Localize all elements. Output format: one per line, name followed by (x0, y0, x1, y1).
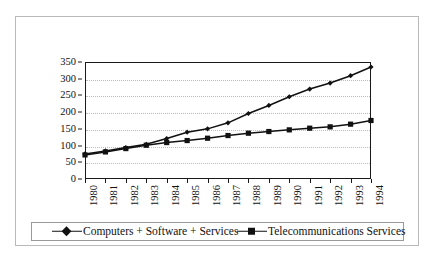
chart-figure: 050100150200250300350 198019811982198319… (0, 0, 436, 263)
x-tick-mark (126, 179, 127, 183)
x-tick-mark (269, 179, 270, 183)
x-tick-mark (208, 179, 209, 183)
x-tick-label: 1991 (314, 185, 325, 206)
diamond-marker-icon (52, 227, 82, 237)
data-point-square (164, 140, 169, 145)
x-tick-label: 1988 (252, 185, 263, 206)
y-tick-mark (78, 62, 82, 63)
data-point-square (144, 143, 149, 148)
y-tick-label: 150 (60, 124, 76, 135)
data-point-diamond (348, 73, 353, 78)
x-tick-mark (310, 179, 311, 183)
plot-wrapper (85, 62, 371, 179)
y-tick-label: 100 (60, 140, 76, 151)
x-tick-label: 1989 (273, 185, 284, 206)
data-point-square (368, 118, 373, 123)
data-point-square (348, 122, 353, 127)
x-tick-label: 1990 (293, 185, 304, 206)
y-tick-label: 250 (60, 90, 76, 101)
y-tick-mark (78, 162, 82, 163)
y-tick-mark (78, 145, 82, 146)
data-point-diamond (328, 80, 333, 85)
legend-entry-computers: Computers + Software + Services (52, 226, 238, 238)
x-tick-mark (228, 179, 229, 183)
y-axis: 050100150200250300350 (44, 62, 82, 179)
y-tick-mark (78, 78, 82, 79)
chart-legend: Computers + Software + Services Telecomm… (31, 222, 404, 241)
data-point-diamond (266, 103, 271, 108)
data-point-diamond (185, 130, 190, 135)
y-tick-label: 350 (60, 57, 76, 68)
x-tick-mark (351, 179, 352, 183)
x-axis: 1980198119821983198419851986198719881989… (85, 179, 371, 221)
x-tick-mark (289, 179, 290, 183)
data-point-square (225, 133, 230, 138)
x-tick-label: 1983 (150, 185, 161, 206)
data-point-square (185, 138, 190, 143)
x-tick-label: 1982 (130, 185, 141, 206)
series-layer (85, 62, 371, 179)
x-tick-mark (248, 179, 249, 183)
x-tick-mark (330, 179, 331, 183)
data-point-square (328, 124, 333, 129)
series-line (85, 67, 371, 154)
legend-entry-telecom: Telecommunications Services (237, 226, 405, 238)
y-tick-label: 0 (71, 174, 76, 185)
data-point-diamond (205, 126, 210, 131)
y-tick-label: 300 (60, 73, 76, 84)
y-tick-mark (78, 95, 82, 96)
series-computers (82, 64, 373, 156)
legend-label-computers: Computers + Software + Services (83, 226, 238, 238)
data-point-square (123, 146, 128, 151)
x-tick-mark (167, 179, 168, 183)
x-tick-mark (146, 179, 147, 183)
y-tick-label: 200 (60, 107, 76, 118)
data-point-square (266, 129, 271, 134)
y-tick-mark (78, 179, 82, 180)
x-tick-label: 1986 (212, 185, 223, 206)
x-tick-label: 1985 (191, 185, 202, 206)
y-tick-mark (78, 128, 82, 129)
x-tick-label: 1984 (171, 185, 182, 206)
square-marker-icon (237, 227, 267, 237)
x-tick-label: 1980 (89, 185, 100, 206)
x-tick-mark (187, 179, 188, 183)
y-tick-label: 50 (66, 157, 77, 168)
x-tick-mark (85, 179, 86, 183)
data-point-square (246, 131, 251, 136)
x-tick-label: 1994 (375, 185, 386, 206)
data-point-square (307, 126, 312, 131)
x-tick-mark (371, 179, 372, 183)
legend-label-telecom: Telecommunications Services (268, 226, 405, 238)
data-point-square (205, 136, 210, 141)
data-point-square (287, 127, 292, 132)
data-point-square (103, 149, 108, 154)
data-point-diamond (225, 120, 230, 125)
data-point-diamond (307, 86, 312, 91)
x-tick-label: 1992 (334, 185, 345, 206)
data-point-diamond (246, 111, 251, 116)
data-point-diamond (287, 94, 292, 99)
x-tick-mark (105, 179, 106, 183)
x-tick-label: 1993 (355, 185, 366, 206)
x-tick-label: 1981 (109, 185, 120, 206)
data-point-square (82, 152, 87, 157)
x-tick-label: 1987 (232, 185, 243, 206)
y-tick-mark (78, 112, 82, 113)
